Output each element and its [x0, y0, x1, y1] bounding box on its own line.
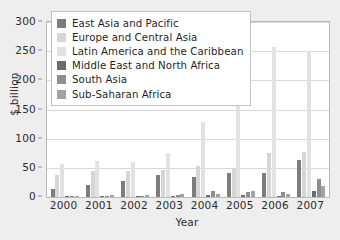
bar-group-2007: [294, 22, 329, 197]
bar: [272, 47, 276, 197]
bar: [110, 195, 114, 197]
bar: [176, 195, 180, 197]
y-axis-tick-mark: [38, 166, 42, 167]
y-axis-tick-mark: [38, 21, 42, 22]
x-axis-title: Year: [46, 216, 328, 228]
bar: [60, 164, 64, 197]
legend-item-label: Europe and Central Asia: [72, 32, 197, 43]
y-axis-tick-label: 150: [15, 103, 36, 115]
y-axis-tick-label: 100: [15, 132, 36, 144]
legend-item-3: Latin America and the Caribbean: [57, 44, 243, 58]
bar: [121, 181, 125, 197]
bar: [236, 98, 240, 197]
x-axis-tick-label: 2007: [293, 199, 328, 215]
y-axis-tick-label: 300: [15, 15, 36, 27]
bar: [95, 161, 99, 197]
bar: [246, 192, 250, 197]
legend: East Asia and PacificEurope and Central …: [51, 11, 251, 106]
bar: [227, 173, 231, 198]
legend-swatch-icon: [57, 19, 66, 28]
bar: [140, 196, 144, 197]
x-axis: 20002001200220032004200520062007: [46, 199, 328, 215]
legend-item-6: Sub-Saharan Africa: [57, 87, 243, 101]
bar: [126, 171, 130, 197]
bar: [55, 175, 59, 197]
bar: [70, 196, 74, 197]
bar: [180, 194, 184, 197]
bar: [251, 191, 255, 197]
bar: [286, 194, 290, 198]
bar: [267, 153, 271, 197]
legend-item-1: East Asia and Pacific: [57, 16, 243, 30]
bar: [281, 192, 285, 197]
legend-swatch-icon: [57, 47, 66, 56]
bar: [91, 171, 95, 197]
bar: [241, 195, 245, 197]
bar: [86, 185, 90, 197]
bar: [317, 179, 321, 197]
bar: [232, 168, 236, 197]
bar: [206, 195, 210, 197]
y-axis-tick-label: 0: [29, 190, 36, 202]
bar: [277, 196, 281, 197]
bar: [65, 196, 69, 197]
x-axis-tick-label: 2004: [187, 199, 222, 215]
bar: [321, 186, 325, 197]
legend-item-2: Europe and Central Asia: [57, 30, 243, 44]
legend-swatch-icon: [57, 61, 66, 70]
legend-swatch-icon: [57, 33, 66, 42]
bar: [156, 175, 160, 197]
bar: [171, 196, 175, 197]
bar: [312, 191, 316, 197]
legend-swatch-icon: [57, 90, 66, 99]
x-axis-tick-label: 2002: [117, 199, 152, 215]
legend-item-label: Sub-Saharan Africa: [72, 89, 171, 100]
bar: [100, 196, 104, 197]
legend-item-4: Middle East and North Africa: [57, 59, 243, 73]
bar-group-2006: [259, 22, 294, 197]
legend-item-label: Middle East and North Africa: [72, 60, 220, 71]
y-axis-tick-mark: [38, 196, 42, 197]
bar: [51, 189, 55, 197]
y-axis-tick-mark: [38, 137, 42, 138]
x-axis-tick-label: 2005: [222, 199, 257, 215]
bar: [136, 196, 140, 197]
bar-chart: $ billion 050100150200250300 20002001200…: [0, 0, 340, 240]
legend-swatch-icon: [57, 75, 66, 84]
y-axis: 050100150200250300: [0, 21, 42, 196]
x-axis-tick-label: 2001: [81, 199, 116, 215]
bar: [262, 173, 266, 198]
y-axis-tick-label: 50: [22, 161, 36, 173]
bar: [297, 160, 301, 197]
legend-item-label: South Asia: [72, 74, 127, 85]
x-axis-tick-label: 2006: [258, 199, 293, 215]
bar: [161, 170, 165, 197]
y-axis-tick-label: 250: [15, 44, 36, 56]
legend-item-label: East Asia and Pacific: [72, 18, 179, 29]
bar: [216, 194, 220, 198]
legend-item-5: South Asia: [57, 73, 243, 87]
bar: [105, 196, 109, 197]
bar: [196, 166, 200, 197]
x-axis-tick-label: 2003: [152, 199, 187, 215]
bar: [201, 122, 205, 197]
y-axis-tick-mark: [38, 79, 42, 80]
bar: [211, 191, 215, 197]
bar: [131, 162, 135, 197]
y-axis-tick-label: 200: [15, 73, 36, 85]
bar: [302, 152, 306, 197]
legend-item-label: Latin America and the Caribbean: [72, 46, 243, 57]
bar: [192, 177, 196, 197]
y-axis-tick-mark: [38, 50, 42, 51]
x-axis-tick-label: 2000: [46, 199, 81, 215]
bar: [145, 195, 149, 197]
bar: [166, 153, 170, 197]
bar: [307, 51, 311, 197]
y-axis-tick-mark: [38, 108, 42, 109]
bar: [75, 196, 79, 197]
